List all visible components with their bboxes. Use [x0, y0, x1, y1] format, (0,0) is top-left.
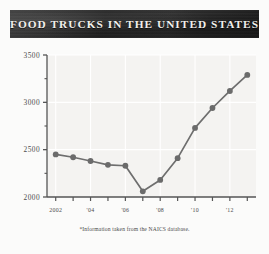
data-point-marker: [192, 125, 198, 131]
data-point-marker: [70, 154, 76, 160]
y-axis-tick-label: 3000: [24, 98, 40, 107]
chart-footnote: *Information taken from the NAICS databa…: [0, 226, 269, 232]
y-axis-tick-label: 2500: [24, 145, 40, 154]
y-axis-tick-label: 2000: [24, 193, 40, 202]
data-point-marker: [227, 88, 233, 94]
y-axis-tick-label: 3500: [24, 51, 40, 60]
x-axis-tick-label: '08: [156, 207, 164, 213]
data-point-marker: [210, 105, 216, 111]
data-point-marker: [175, 155, 181, 161]
data-point-marker: [53, 151, 59, 157]
data-point-marker: [122, 163, 128, 169]
plot-background: [47, 55, 256, 197]
chart-card: FOOD TRUCKS IN THE UNITED STATES 2000250…: [0, 0, 269, 254]
x-axis-tick-label: '12: [226, 207, 234, 213]
data-point-marker: [140, 188, 146, 194]
data-point-marker: [88, 158, 94, 164]
x-axis-tick-label: 2002: [49, 207, 62, 213]
data-point-marker: [157, 177, 163, 183]
page-title: FOOD TRUCKS IN THE UNITED STATES: [10, 18, 259, 30]
title-banner: FOOD TRUCKS IN THE UNITED STATES: [10, 10, 259, 38]
x-axis-tick-label: '06: [121, 207, 129, 213]
x-axis-tick-label: '10: [191, 207, 199, 213]
data-point-marker: [105, 162, 111, 168]
line-chart-svg: 20002500300035002002'04'06'08'10'12: [0, 40, 269, 215]
data-point-marker: [244, 72, 250, 78]
x-axis-tick-label: '04: [87, 207, 95, 213]
chart-plot-area: 20002500300035002002'04'06'08'10'12: [0, 40, 269, 215]
